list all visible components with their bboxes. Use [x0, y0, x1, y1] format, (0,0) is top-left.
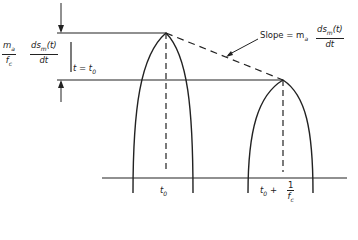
slope-prefix-sub: a — [304, 35, 308, 42]
t1-prefix-sub: 0 — [263, 190, 267, 197]
slope-prefix: Slope = m — [260, 30, 304, 40]
slope-arrow-head-icon — [226, 51, 233, 57]
axis-label-t0-plus: t0 + — [260, 185, 277, 197]
slope-frac-denominator: dt — [325, 39, 334, 49]
pulse-2 — [248, 80, 313, 193]
t0-sub: 0 — [163, 190, 167, 197]
frac1-numerator-sub: a — [11, 45, 15, 52]
up-arrow-icon — [58, 80, 64, 88]
ma-over-fc-fraction: ma fc — [2, 40, 16, 68]
evaluation-condition: t = t0 — [73, 63, 96, 75]
derivative-fraction: dsm(t) dt — [30, 40, 58, 65]
frac2-numerator: ds — [31, 40, 41, 50]
slope-frac-numerator: ds — [317, 24, 327, 34]
slope-derivative-fraction: dsm(t) dt — [316, 24, 344, 49]
down-arrow-icon — [58, 25, 64, 33]
t1-plus: + — [270, 185, 277, 195]
t1-numerator: 1 — [287, 180, 294, 191]
slope-frac-numerator-tail: (t) — [333, 24, 343, 34]
pulse-1 — [133, 33, 193, 193]
frac2-numerator-tail: (t) — [47, 40, 57, 50]
eval-sub: 0 — [92, 68, 96, 75]
slope-label: Slope = ma — [260, 30, 308, 42]
t1-denominator-sub: c — [291, 196, 294, 203]
one-over-fc-fraction: 1 fc — [287, 180, 294, 205]
frac2-denominator: dt — [39, 55, 48, 65]
frac1-denominator-sub: c — [9, 59, 12, 66]
slope-pointer-line — [228, 39, 258, 55]
axis-label-t0: t0 — [160, 185, 167, 197]
eval-text: t = t — [73, 63, 92, 73]
